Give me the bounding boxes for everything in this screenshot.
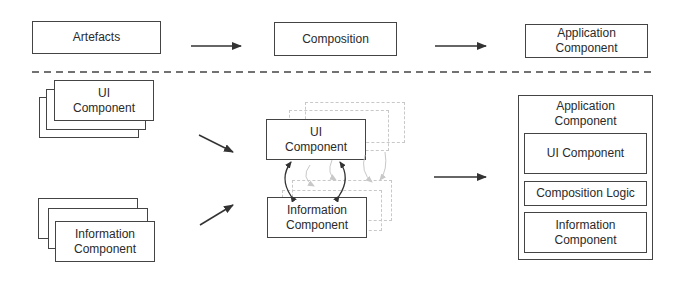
arrow-info-to-composition [200, 205, 233, 225]
connectors [0, 0, 682, 283]
bidirectional-arrow-right [339, 162, 345, 196]
bidirectional-arrow-left [285, 162, 291, 196]
arrow-ui-to-composition [199, 135, 233, 152]
